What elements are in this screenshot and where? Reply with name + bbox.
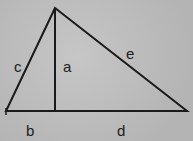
- label-e: e: [126, 45, 134, 62]
- triangle-svg: c a e b d: [0, 0, 193, 141]
- label-d: d: [117, 122, 125, 139]
- label-a: a: [63, 58, 72, 75]
- triangle-outline: [6, 8, 187, 111]
- label-c: c: [14, 58, 22, 75]
- label-b: b: [26, 122, 34, 139]
- triangle-diagram: c a e b d: [0, 0, 193, 141]
